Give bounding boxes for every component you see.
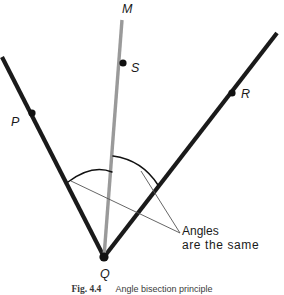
point-label-m: M xyxy=(122,3,132,16)
point-label-s: S xyxy=(131,62,139,75)
annotation-line-2: are the same xyxy=(182,238,259,252)
figure-caption: Fig. 4.4Angle bisection principle xyxy=(0,284,284,295)
point-dot-q xyxy=(99,252,108,261)
caption-text: Angle bisection principle xyxy=(115,284,212,294)
angle-arc-left xyxy=(68,170,112,182)
angle-arc-right xyxy=(113,156,158,185)
point-label-q: Q xyxy=(100,268,110,281)
point-label-r: R xyxy=(241,88,250,101)
point-dot-p xyxy=(28,109,35,116)
bisector-ray-qm xyxy=(104,20,122,257)
point-label-p: P xyxy=(11,116,19,129)
ray-qp xyxy=(2,57,104,257)
annotation-line-1: Angles xyxy=(182,224,259,238)
point-dot-s xyxy=(119,59,126,66)
angle-bisection-figure: M S P R Q Angles are the same Fig. 4.4An… xyxy=(0,0,284,295)
caption-number: Fig. 4.4 xyxy=(72,284,102,294)
point-dot-r xyxy=(228,89,235,96)
angles-are-the-same-annotation: Angles are the same xyxy=(182,224,259,252)
